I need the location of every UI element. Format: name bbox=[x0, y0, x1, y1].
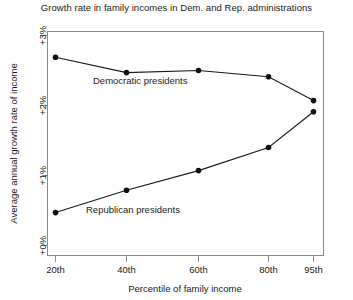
y-axis-title: Average annual growth rate of income bbox=[8, 63, 19, 223]
democratic-series-label: Democratic presidents bbox=[93, 75, 188, 86]
data-point bbox=[311, 109, 317, 115]
data-point bbox=[53, 54, 59, 60]
x-tick-label-95th: 95th bbox=[304, 264, 323, 275]
chart-figure: Growth rate in family incomes in Dem. an… bbox=[0, 0, 353, 300]
republican-series-label: Republican presidents bbox=[86, 204, 180, 215]
data-point bbox=[196, 68, 202, 74]
plot-frame bbox=[48, 32, 324, 256]
x-tick-labels: 20th 40th 60th 80th 95th bbox=[46, 264, 323, 275]
data-point bbox=[53, 210, 59, 216]
data-point bbox=[266, 145, 272, 151]
x-axis-title: Percentile of family income bbox=[128, 283, 242, 294]
data-point bbox=[196, 168, 202, 174]
series-republican bbox=[53, 109, 317, 215]
x-tick-label-80th: 80th bbox=[259, 264, 278, 275]
series-line bbox=[56, 112, 314, 213]
x-tick-label-20th: 20th bbox=[46, 264, 65, 275]
y-tick-label-1: +1% bbox=[37, 165, 48, 185]
y-axis-ticks bbox=[42, 36, 48, 246]
x-tick-label-40th: 40th bbox=[117, 264, 136, 275]
y-tick-label-0: +0% bbox=[37, 235, 48, 255]
data-point bbox=[311, 98, 317, 104]
plot-area: +3% +2% +1% +0% Average annual growth ra… bbox=[0, 0, 353, 300]
x-tick-label-60th: 60th bbox=[189, 264, 208, 275]
x-axis-ticks bbox=[56, 256, 314, 263]
data-point bbox=[124, 187, 130, 193]
y-tick-label-3: +3% bbox=[37, 25, 48, 45]
data-point bbox=[266, 74, 272, 80]
y-tick-label-2: +2% bbox=[37, 95, 48, 115]
y-tick-labels: +3% +2% +1% +0% bbox=[37, 25, 48, 255]
